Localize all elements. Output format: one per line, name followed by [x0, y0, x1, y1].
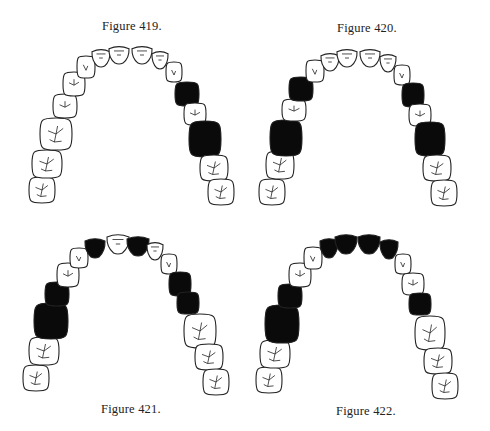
filled-molar-tooth	[34, 303, 68, 339]
canine-tooth	[77, 56, 95, 78]
filled-molar-tooth	[265, 305, 299, 343]
filled-premolar-tooth	[278, 284, 302, 308]
canine-tooth	[70, 248, 88, 268]
canine-tooth	[161, 254, 177, 274]
canine-tooth	[395, 254, 411, 274]
canine-tooth	[306, 60, 324, 82]
filled-incisor-tooth	[127, 237, 149, 256]
figure-422-arch	[256, 235, 458, 399]
filled-premolar-tooth	[177, 292, 199, 314]
figure-420-arch	[259, 50, 457, 206]
filled-molar-tooth	[189, 121, 221, 157]
figure-420-caption: Figure 420.	[337, 21, 397, 36]
figure-421-caption: Figure 421.	[101, 402, 161, 417]
filled-premolar-tooth	[409, 293, 431, 315]
canine-tooth	[304, 247, 322, 269]
canine-tooth	[166, 62, 182, 82]
filled-molar-tooth	[415, 122, 445, 156]
canine-tooth	[394, 65, 410, 85]
figure-421-arch	[23, 235, 229, 395]
filled-premolar-tooth	[175, 82, 199, 106]
figure-419-caption: Figure 419.	[102, 19, 162, 34]
figure-422-caption: Figure 422.	[336, 404, 396, 419]
filled-incisor-tooth	[335, 235, 357, 254]
filled-molar-tooth	[270, 120, 302, 156]
dental-plates	[0, 0, 490, 431]
figure-419-arch	[29, 47, 234, 205]
filled-premolar-tooth	[402, 83, 424, 107]
filled-incisor-tooth	[358, 235, 380, 254]
